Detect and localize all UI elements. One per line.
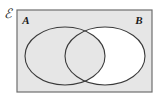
shaded-region [17,10,152,92]
venn-diagram-svg: A B ℰ [0,0,163,101]
set-a-label: A [21,14,29,26]
set-b-label: B [134,14,142,26]
venn-diagram-figure: A B ℰ [0,0,163,101]
universal-set-symbol: ℰ [4,6,13,21]
